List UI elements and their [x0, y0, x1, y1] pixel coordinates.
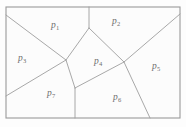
cell-label-p7-subscript: 7 [52, 92, 55, 99]
cell-label-p1: p1 [51, 21, 59, 31]
cell-label-p1-subscript: 1 [56, 24, 59, 31]
cell-label-p2: p2 [112, 17, 120, 27]
cell-label-p4: p4 [94, 57, 102, 67]
cell-label-p6: p6 [113, 93, 121, 103]
cell-label-p5: p5 [152, 62, 160, 72]
voronoi-diagram: p1 p2 p3 p4 p5 p6 p7 [0, 0, 186, 127]
cell-label-p7: p7 [47, 89, 55, 99]
cell-label-p3-subscript: 3 [23, 57, 26, 64]
cell-label-p6-subscript: 6 [118, 96, 121, 103]
cell-label-p2-subscript: 2 [117, 20, 120, 27]
cell-label-p3: p3 [18, 54, 26, 64]
cell-label-p5-subscript: 5 [157, 65, 160, 72]
cell-label-p4-subscript: 4 [99, 60, 102, 67]
